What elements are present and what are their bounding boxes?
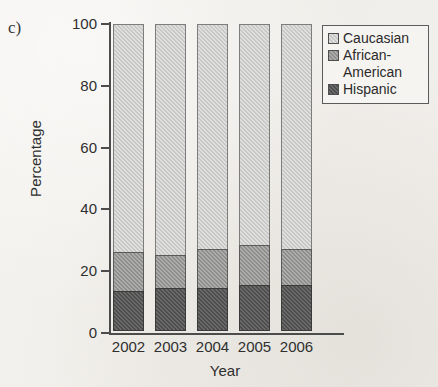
bar-segment-caucasian-2006 bbox=[281, 24, 312, 250]
y-axis-tick bbox=[101, 85, 110, 87]
bar-2005 bbox=[239, 24, 270, 333]
bar-segment-african-american-2003 bbox=[155, 255, 186, 289]
bar-segment-caucasian-2004 bbox=[197, 24, 228, 250]
bar-segment-caucasian-2003 bbox=[155, 24, 186, 256]
y-axis-tick-label: 100 bbox=[57, 15, 97, 32]
bar-segment-hispanic-2005 bbox=[239, 285, 270, 331]
bar-segment-african-american-2002 bbox=[113, 252, 144, 292]
chart-legend: CaucasianAfrican- AmericanHispanic bbox=[322, 25, 429, 104]
legend-swatch-hispanic bbox=[328, 84, 339, 95]
bar-2003 bbox=[155, 24, 186, 333]
bar-segment-african-american-2006 bbox=[281, 249, 312, 286]
stacked-bar-chart-figure: c) 020406080100 Percentage Year 20022003… bbox=[0, 0, 438, 387]
x-axis-tick-label-2004: 2004 bbox=[189, 338, 237, 355]
plot-area bbox=[110, 24, 340, 333]
legend-entry: Hispanic bbox=[328, 81, 424, 98]
y-axis-tick bbox=[101, 332, 110, 334]
legend-swatch-african-american bbox=[328, 50, 339, 61]
x-axis-tick-label-2006: 2006 bbox=[273, 338, 321, 355]
y-axis-tick-label: 0 bbox=[57, 324, 97, 341]
y-axis-tick-label: 80 bbox=[57, 77, 97, 94]
y-axis-tick bbox=[101, 270, 110, 272]
y-axis-tick-label: 60 bbox=[57, 139, 97, 156]
legend-label: Hispanic bbox=[343, 81, 397, 98]
y-axis-tick-label: 40 bbox=[57, 200, 97, 217]
y-axis-tick bbox=[101, 208, 110, 210]
bar-segment-hispanic-2003 bbox=[155, 288, 186, 331]
x-axis-tick-label-2005: 2005 bbox=[231, 338, 279, 355]
legend-swatch-caucasian bbox=[328, 33, 339, 44]
panel-label: c) bbox=[8, 18, 21, 38]
y-axis-label: Percentage bbox=[27, 99, 44, 219]
bar-2006 bbox=[281, 24, 312, 333]
x-axis-line bbox=[109, 333, 344, 335]
bar-segment-african-american-2005 bbox=[239, 245, 270, 285]
y-axis-tick bbox=[101, 147, 110, 149]
legend-label: Caucasian bbox=[343, 30, 409, 47]
bar-segment-african-american-2004 bbox=[197, 249, 228, 289]
legend-label: African- American bbox=[343, 47, 402, 81]
bar-segment-caucasian-2005 bbox=[239, 24, 270, 246]
bar-segment-caucasian-2002 bbox=[113, 24, 144, 253]
legend-entry: Caucasian bbox=[328, 30, 424, 47]
legend-entry: African- American bbox=[328, 47, 424, 81]
bar-segment-hispanic-2006 bbox=[281, 285, 312, 331]
bar-segment-hispanic-2002 bbox=[113, 291, 144, 331]
bar-2004 bbox=[197, 24, 228, 333]
y-axis-tick bbox=[101, 23, 110, 25]
x-axis-tick-label-2002: 2002 bbox=[105, 338, 153, 355]
bar-2002 bbox=[113, 24, 144, 333]
y-axis-tick-label: 20 bbox=[57, 262, 97, 279]
x-axis-tick-label-2003: 2003 bbox=[147, 338, 195, 355]
x-axis-label: Year bbox=[110, 362, 340, 379]
bar-segment-hispanic-2004 bbox=[197, 288, 228, 331]
